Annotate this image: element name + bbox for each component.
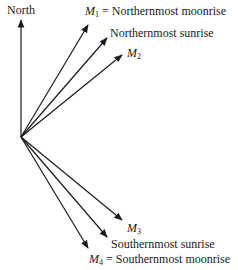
ray-diagram bbox=[0, 0, 238, 270]
northernmost-sunrise-arrow bbox=[21, 38, 107, 137]
m3-arrow bbox=[21, 137, 122, 220]
m4-arrow bbox=[21, 137, 88, 248]
m4-label: M4 = Southernmost moonrise bbox=[89, 252, 230, 270]
m1-arrow bbox=[21, 25, 88, 137]
m1-label: M1 = Northernmost moonrise bbox=[85, 4, 226, 22]
m2-label: M2 bbox=[127, 46, 141, 64]
southernmost-sunrise-arrow bbox=[21, 137, 107, 237]
m2-arrow bbox=[21, 55, 122, 137]
southernmost-sunrise-label: Southernmost sunrise bbox=[111, 237, 215, 251]
north-label: North bbox=[7, 3, 35, 17]
northernmost-sunrise-label: Northernmost sunrise bbox=[110, 26, 214, 40]
